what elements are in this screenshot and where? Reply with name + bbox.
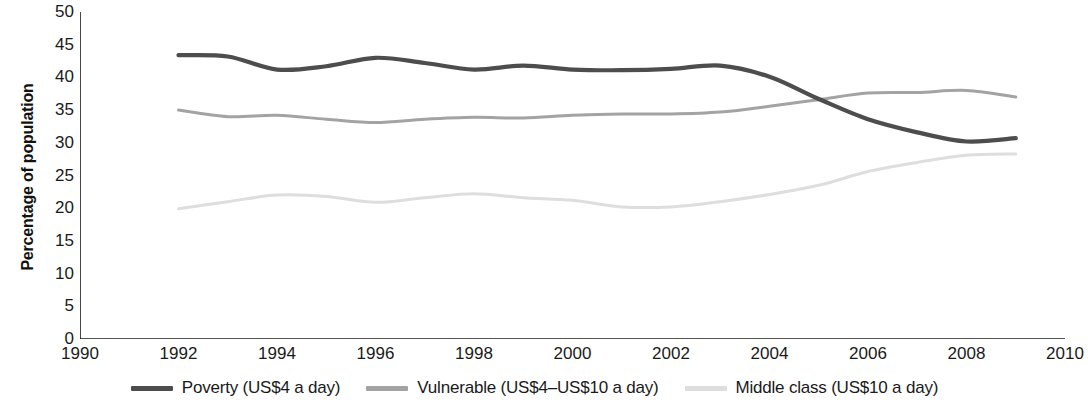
legend-item-label: Middle class (US$10 a day)	[736, 378, 939, 398]
y-tick-label: 20	[38, 198, 74, 218]
y-tick-label: 30	[38, 133, 74, 153]
x-tick-label: 2004	[735, 344, 805, 364]
x-tick-label: 2000	[538, 344, 608, 364]
x-tick-label: 2008	[932, 344, 1002, 364]
x-tick-label: 1990	[45, 344, 115, 364]
legend-line-icon	[366, 386, 408, 391]
legend-item[interactable]: Vulnerable (US$4–US$10 a day)	[366, 378, 658, 398]
legend-item-label: Poverty (US$4 a day)	[182, 378, 341, 398]
chart-legend: Poverty (US$4 a day)Vulnerable (US$4–US$…	[0, 378, 1069, 398]
legend-line-icon	[685, 386, 727, 391]
y-tick-label: 10	[38, 264, 74, 284]
x-tick-label: 1996	[341, 344, 411, 364]
plot-area	[80, 12, 1065, 339]
x-axis-tick-labels: 1990199219941996199820002002200420062008…	[0, 344, 1069, 370]
series-line	[179, 55, 1016, 142]
x-tick-label: 1994	[242, 344, 312, 364]
x-tick-label: 2010	[1030, 344, 1088, 364]
x-tick-label: 2002	[636, 344, 706, 364]
legend-line-icon	[131, 386, 173, 391]
chart-lines	[80, 12, 1065, 339]
series-line	[179, 90, 1016, 122]
legend-item[interactable]: Poverty (US$4 a day)	[131, 378, 341, 398]
y-tick-label: 35	[38, 100, 74, 120]
x-tick-label: 2006	[833, 344, 903, 364]
y-axis-tick-labels: 05101520253035404550	[22, 12, 74, 339]
x-tick-label: 1998	[439, 344, 509, 364]
legend-item[interactable]: Middle class (US$10 a day)	[685, 378, 939, 398]
y-tick-label: 45	[38, 35, 74, 55]
y-tick-label: 40	[38, 67, 74, 87]
legend-item-label: Vulnerable (US$4–US$10 a day)	[417, 378, 658, 398]
y-tick-label: 5	[38, 296, 74, 316]
y-tick-label: 50	[38, 2, 74, 22]
y-tick-label: 25	[38, 166, 74, 186]
series-line	[179, 154, 1016, 209]
y-tick-label: 15	[38, 231, 74, 251]
x-tick-label: 1992	[144, 344, 214, 364]
